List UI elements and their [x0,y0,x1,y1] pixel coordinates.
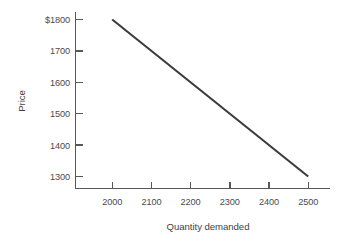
y-tick-label-1500: 1500 [50,109,70,119]
y-tick-label-1600: 1600 [50,78,70,88]
x-tick-label-2400: 2400 [259,197,279,207]
x-tick-label-2500: 2500 [298,197,318,207]
demand-curve-line [112,20,308,177]
y-tick-label-1700: 1700 [50,46,70,56]
x-tick-label-2200: 2200 [181,197,201,207]
x-tick-marks [112,182,308,189]
x-tick-label-2000: 2000 [102,197,122,207]
y-tick-label-1400: 1400 [50,141,70,151]
y-tick-label-1300: 1300 [50,172,70,182]
y-axis-title: Price [16,90,27,112]
x-axis-title: Quantity demanded [167,221,250,232]
y-tick-label-1800: $1800 [45,15,70,25]
x-tick-label-2300: 2300 [220,197,240,207]
y-tick-marks [76,20,83,177]
x-tick-label-2100: 2100 [141,197,161,207]
demand-curve-chart: $1800 1700 1600 1500 1400 1300 2000 2100… [0,0,344,245]
chart-figure: $1800 1700 1600 1500 1400 1300 2000 2100… [0,0,344,245]
